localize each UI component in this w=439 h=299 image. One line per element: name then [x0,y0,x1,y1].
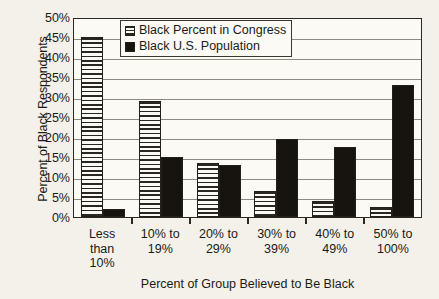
y-tick-label: 25% [45,112,70,125]
x-tick-label: 30% to39% [248,227,306,279]
bar [334,147,356,217]
x-tick-label-line: 10% to [131,227,189,242]
y-tick-label: 40% [45,52,70,65]
chart-legend: Black Percent in Congress Black U.S. Pop… [120,20,292,57]
x-tick [189,218,191,224]
x-axis-tick-labels: Lessthan10%10% to19%20% to29%30% to39%40… [73,227,422,279]
bar [139,101,161,217]
bar [161,157,183,217]
y-tick-label: 30% [45,92,70,105]
x-tick-label: 20% to29% [189,227,247,279]
x-tick [305,218,307,224]
bar-group [363,19,421,217]
solid-swatch-icon [125,42,135,52]
y-tick-label: 45% [45,32,70,45]
y-tick-label: 5% [52,192,70,205]
y-tick-label: 10% [45,172,70,185]
y-axis-tick-labels: 50% 45% 40% 35% 30% 25% 20% 15% 10% 5% 0… [24,18,70,218]
x-axis-ticks [73,218,422,225]
x-tick [247,218,249,224]
x-axis-title: Percent of Group Believed to Be Black [73,277,422,291]
y-tick-label: 15% [45,152,70,165]
bar [276,139,298,217]
x-tick [363,218,365,224]
bar [219,165,241,217]
y-tick-label: 35% [45,72,70,85]
x-tick-label-line: 50% to [364,227,422,242]
x-tick-label-line: Less [73,227,131,242]
x-tick-label: 10% to19% [131,227,189,279]
x-tick-label-line: 29% [189,242,247,257]
bar [103,209,125,217]
bar-chart: Percent of Black Respondents 50% 45% 40%… [0,0,439,299]
y-tick-label: 20% [45,132,70,145]
x-tick [131,218,133,224]
x-tick-label-line: 30% to [248,227,306,242]
hatch-swatch-icon [125,26,135,36]
x-tick-label-line: 40% to [306,227,364,242]
x-tick-label-line: than [73,242,131,257]
x-tick-label-line: 39% [248,242,306,257]
x-tick-label-line: 19% [131,242,189,257]
legend-item-label: Black U.S. Population [139,40,260,53]
bar [312,201,334,217]
x-tick-label-line: 10% [73,256,131,271]
bar-group [305,19,363,217]
legend-item: Black Percent in Congress [125,24,286,37]
bar [254,191,276,217]
y-tick-label: 0% [52,212,70,225]
legend-item-label: Black Percent in Congress [139,24,286,37]
x-tick-label: Lessthan10% [73,227,131,279]
x-tick-label-line: 49% [306,242,364,257]
legend-item: Black U.S. Population [125,40,286,53]
bar [392,85,414,217]
x-tick-label-line: 20% to [189,227,247,242]
x-tick-label: 40% to49% [306,227,364,279]
bar [197,163,219,217]
x-tick-label-line: 100% [364,242,422,257]
y-tick-label: 50% [45,12,70,25]
x-tick-label: 50% to100% [364,227,422,279]
bar [81,37,103,217]
bar [370,207,392,217]
